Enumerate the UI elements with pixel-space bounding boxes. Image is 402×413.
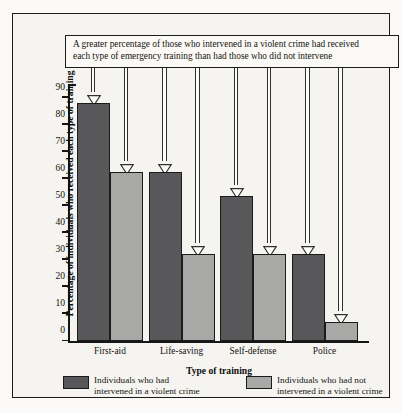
y-tick-label-30: 30 bbox=[35, 243, 65, 254]
y-tick-label-80: 80 bbox=[35, 108, 65, 119]
y-axis-title: Percentage of individuals who received e… bbox=[64, 44, 75, 344]
legend-label-2: Individuals who had notintervened in a v… bbox=[277, 375, 383, 398]
legend-item-2: Individuals who had notintervened in a v… bbox=[246, 375, 383, 398]
y-tick-label-50: 50 bbox=[35, 189, 65, 200]
bar-life-saving-series-1 bbox=[149, 172, 182, 341]
bar-police-series-1 bbox=[292, 254, 325, 341]
y-tick-label-20: 20 bbox=[35, 270, 65, 281]
chart-figure: A greater percentage of those who interv… bbox=[0, 0, 402, 413]
bar-self-defense-series-2 bbox=[253, 254, 286, 341]
y-tick-label-40: 40 bbox=[35, 216, 65, 227]
legend-label-line-1: Individuals who had not bbox=[277, 375, 383, 386]
figure-frame: A greater percentage of those who interv… bbox=[12, 13, 390, 398]
bar-first-aid-series-1 bbox=[77, 103, 110, 341]
legend-item-1: Individuals who hadintervened in a viole… bbox=[63, 375, 200, 398]
legend-label-line-2: intervened in a violent crime bbox=[94, 386, 200, 397]
legend-label-line-1: Individuals who had bbox=[94, 375, 200, 386]
legend-label-line-2: intervened in a violent crime bbox=[277, 386, 383, 397]
y-tick-label-90: 90 bbox=[35, 81, 65, 92]
plot-area: 0102030405060708090 First-aidLife-saving… bbox=[69, 84, 369, 341]
bar-self-defense-series-1 bbox=[220, 196, 253, 341]
bar-police-series-2 bbox=[325, 322, 358, 341]
y-tick-label-0: 0 bbox=[35, 324, 65, 335]
x-label-police: Police bbox=[277, 346, 373, 356]
legend-label-1: Individuals who hadintervened in a viole… bbox=[94, 375, 200, 398]
bar-life-saving-series-2 bbox=[182, 254, 215, 341]
legend-swatch-2 bbox=[246, 376, 272, 389]
callout-annotation-box: A greater percentage of those who interv… bbox=[65, 35, 399, 68]
y-tick-label-60: 60 bbox=[35, 162, 65, 173]
callout-line-2: each type of emergency training than had… bbox=[73, 51, 392, 63]
x-axis-line bbox=[68, 341, 369, 343]
bar-first-aid-series-2 bbox=[110, 172, 143, 341]
chart-legend: Individuals who hadintervened in a viole… bbox=[63, 375, 393, 405]
callout-line-1: A greater percentage of those who interv… bbox=[73, 39, 392, 51]
y-tick-label-10: 10 bbox=[35, 297, 65, 308]
y-tick-label-70: 70 bbox=[35, 135, 65, 146]
legend-swatch-1 bbox=[63, 376, 89, 389]
